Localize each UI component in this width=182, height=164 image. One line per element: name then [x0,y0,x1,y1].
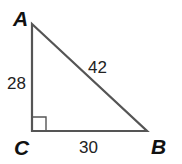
right-angle-marker [32,117,46,131]
side-label-cb: 30 [79,138,98,157]
triangle-diagram: A B C 28 42 30 [0,0,182,164]
side-label-ac: 28 [7,74,26,93]
vertex-label-c: C [14,136,30,159]
vertex-label-a: A [12,7,28,30]
triangle-abc [32,24,147,131]
vertex-label-b: B [151,135,166,158]
side-label-ab: 42 [88,58,107,77]
